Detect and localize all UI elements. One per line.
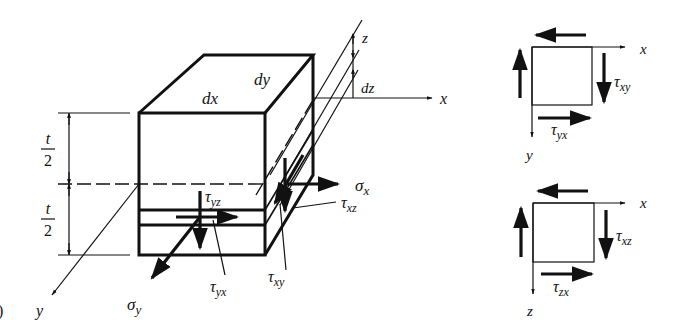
- tau-yx-label: τyx: [210, 278, 227, 299]
- sigma-x-label: σx: [355, 176, 369, 198]
- cube-top-face: [139, 55, 313, 113]
- tau-yz-label: τyz: [205, 188, 221, 209]
- dz-label: dz: [361, 80, 375, 96]
- inset-xy-square: [532, 47, 592, 105]
- inset-xz-element: x z τxz τzx: [521, 191, 647, 319]
- element-cube: [139, 55, 313, 255]
- dy-label: dy: [254, 70, 271, 89]
- inset-tau-yx-label: τyx: [551, 121, 568, 142]
- inset-xz-x-label: x: [639, 195, 647, 211]
- tau-xz-leader: [293, 202, 336, 208]
- dx-label: dx: [202, 89, 219, 108]
- panel-marker: ): [0, 302, 3, 320]
- dz-guide-upper: [276, 50, 359, 192]
- sigma-y-label: σy: [127, 295, 141, 317]
- z-axis-label: z: [361, 30, 368, 46]
- x-axis-label: x: [439, 90, 447, 107]
- tau-yx-leader: [213, 220, 225, 275]
- t-half-upper-numerator: t: [46, 130, 51, 147]
- inset-xz-z-label: z: [526, 303, 533, 319]
- y-axis-label: y: [34, 302, 44, 320]
- t-half-lower-denominator: 2: [44, 222, 52, 239]
- tau-xy-leader: [280, 204, 286, 270]
- t-half-upper-denominator: 2: [44, 152, 52, 169]
- t-half-lower-numerator: t: [46, 200, 51, 217]
- tau-xy-label: τxy: [268, 268, 285, 289]
- dz-dimension: z dz: [353, 30, 375, 98]
- inset-tau-xy-label: τxy: [614, 73, 631, 94]
- inset-tau-zx-label: τzx: [553, 278, 569, 299]
- plate-element-stress-diagram: z dz x y ) dx dy t 2 t 2 τyz τyx: [0, 0, 690, 325]
- inset-xy-y-label: y: [524, 147, 533, 163]
- inset-xy-element: x y τxy τyx: [520, 35, 647, 163]
- x-axis: x: [313, 90, 447, 107]
- y-axis-arrow: [52, 184, 139, 295]
- inset-xz-square: [533, 203, 594, 262]
- inset-tau-xz-label: τxz: [616, 227, 632, 248]
- front-face-stresses: τyz τyx σy: [127, 188, 237, 317]
- tau-xz-label: τxz: [341, 194, 357, 215]
- inset-xy-x-label: x: [639, 41, 647, 57]
